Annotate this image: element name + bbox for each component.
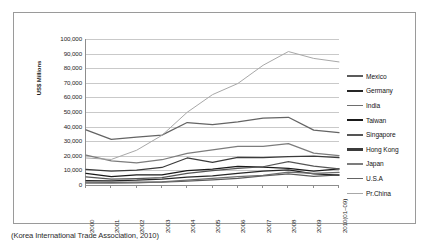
x-axis-tick-labels: 2000200120022003200420052006200720082009… xyxy=(85,189,338,235)
chart-legend: MexicoGermanyIndiaTaiwanSingaporeHong Ko… xyxy=(347,69,429,200)
x-axis-tick-label: 2010(01~09) xyxy=(341,199,348,233)
legend-swatch xyxy=(347,178,363,180)
chart-frame: US$ Millions 100,00090,00080,00070,00060… xyxy=(13,12,416,224)
series-line-pr-china xyxy=(86,52,339,160)
y-axis-tick-label: 50,000 xyxy=(42,108,82,116)
legend-item-hong-kong[interactable]: Hong Kong xyxy=(347,142,429,157)
plot-area xyxy=(85,39,339,186)
legend-swatch xyxy=(347,193,363,194)
legend-swatch xyxy=(347,75,363,77)
legend-swatch xyxy=(347,90,363,93)
y-axis-tick-label: 70,000 xyxy=(42,79,82,87)
x-axis-tick-label: 2005 xyxy=(214,220,221,233)
x-axis-tick xyxy=(313,185,314,188)
y-axis-tick-labels: 100,00090,00080,00070,00060,00050,00040,… xyxy=(42,35,82,187)
x-axis-tick-label: 2004 xyxy=(189,220,196,233)
x-axis-tick xyxy=(136,185,137,188)
legend-item-germany[interactable]: Germany xyxy=(347,84,429,99)
y-axis-tick-label: 20,000 xyxy=(42,152,82,160)
x-axis-tick xyxy=(186,185,187,188)
x-axis-tick xyxy=(338,185,339,188)
x-axis-tick xyxy=(262,185,263,188)
legend-item-mexico[interactable]: Mexico xyxy=(347,69,429,84)
x-axis-tick-label: 2008 xyxy=(290,220,297,233)
y-axis-tick-label: 80,000 xyxy=(42,64,82,72)
y-axis-tick-label: 40,000 xyxy=(42,123,82,131)
legend-swatch xyxy=(347,105,363,107)
x-axis-tick-label: 2007 xyxy=(265,220,272,233)
legend-item-india[interactable]: India xyxy=(347,98,429,113)
legend-label: Hong Kong xyxy=(366,146,399,153)
legend-label: Singapore xyxy=(366,131,396,138)
series-line-japan xyxy=(86,144,339,163)
x-axis-tick xyxy=(161,185,162,188)
legend-label: Taiwan xyxy=(366,117,386,124)
x-axis-tick xyxy=(237,185,238,188)
y-axis-tick-label: 90,000 xyxy=(42,50,82,58)
legend-label: Pr.China xyxy=(366,190,391,197)
legend-label: Japan xyxy=(366,160,384,167)
y-axis-tick-label: 30,000 xyxy=(42,137,82,145)
legend-item-u-s-a[interactable]: U.S.A xyxy=(347,171,429,186)
legend-item-singapore[interactable]: Singapore xyxy=(347,127,429,142)
series-line-u-s-a xyxy=(86,117,339,139)
x-axis-tick xyxy=(287,185,288,188)
figure-container: US$ Millions 100,00090,00080,00070,00060… xyxy=(0,0,429,245)
y-axis-tick-label: 100,000 xyxy=(42,35,82,43)
figure-caption: (Korea International Trade Association, … xyxy=(11,231,159,240)
x-axis-tick-label: 2003 xyxy=(164,220,171,233)
legend-swatch xyxy=(347,148,363,151)
legend-item-japan[interactable]: Japan xyxy=(347,157,429,172)
legend-label: India xyxy=(366,102,380,109)
x-axis-tick xyxy=(212,185,213,188)
legend-item-pr-china[interactable]: Pr.China xyxy=(347,186,429,201)
legend-label: Mexico xyxy=(366,73,387,80)
y-axis-tick-label: 10,000 xyxy=(42,166,82,174)
y-axis-tick-label: 0 xyxy=(42,181,82,189)
legend-swatch xyxy=(347,134,363,136)
legend-label: U.S.A xyxy=(366,175,383,182)
legend-swatch xyxy=(347,119,363,122)
x-axis-tick-label: 2006 xyxy=(239,220,246,233)
x-axis-tick xyxy=(85,185,86,188)
y-axis-tick-label: 60,000 xyxy=(42,93,82,101)
legend-label: Germany xyxy=(366,87,393,94)
series-lines xyxy=(86,39,339,185)
x-axis-tick xyxy=(110,185,111,188)
series-line-india xyxy=(86,172,339,183)
x-axis-tick-label: 2009 xyxy=(315,220,322,233)
legend-item-taiwan[interactable]: Taiwan xyxy=(347,113,429,128)
legend-swatch xyxy=(347,163,363,165)
